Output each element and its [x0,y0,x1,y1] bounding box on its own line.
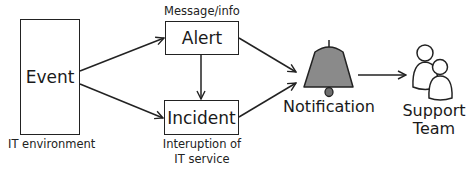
arrow-alert-to-notification [239,38,296,72]
incident-node: Incident [164,100,239,135]
notification-label: Notification [283,97,375,117]
support-team-label-line2: Team [400,119,468,139]
alert-caption: Message/info [163,4,241,19]
incident-caption-line1: Interuption of [160,137,244,152]
users-icon [413,45,452,100]
alert-label: Alert [182,28,222,48]
event-label: Event [26,67,75,87]
arrow-event-to-incident [80,84,163,118]
alert-node: Alert [165,21,239,55]
support-team-label-line1: Support [400,101,468,121]
incident-caption-line2: IT service [160,152,244,167]
bell-icon [304,40,353,97]
event-node: Event [20,19,80,135]
event-caption: IT environment [8,137,92,152]
incident-label: Incident [167,108,236,128]
arrow-event-to-alert [80,38,164,71]
